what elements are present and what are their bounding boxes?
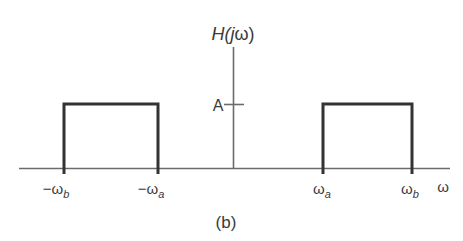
vertical-axis-title-close-paren: ) <box>249 24 255 44</box>
xtick-minus-omega-b-main: −ω <box>43 180 64 197</box>
vertical-axis-title-H: H( <box>211 24 232 44</box>
xtick-omega-a-subscript: a <box>325 188 331 200</box>
amplitude-label: A <box>213 97 224 114</box>
figure-caption: (b) <box>216 213 237 232</box>
xtick-label-omega-b: ωb <box>401 180 419 200</box>
vertical-axis-title: H(jω) <box>211 24 254 44</box>
xtick-label-minus-omega-a: −ωa <box>138 180 165 200</box>
xtick-omega-b-main: ω <box>401 180 413 197</box>
figure-container: H(jω) A −ωb −ωa ωa ωb ω (b) <box>0 0 463 241</box>
vertical-axis-title-omega: ω <box>234 24 248 44</box>
xtick-omega-b-subscript: b <box>413 188 419 200</box>
passband-rect-negative <box>64 104 158 174</box>
xtick-minus-omega-b-subscript: b <box>63 188 69 200</box>
passband-rect-positive <box>323 104 412 174</box>
xtick-label-omega-a: ωa <box>313 180 331 200</box>
xtick-minus-omega-a-subscript: a <box>158 188 164 200</box>
bandpass-filter-figure: H(jω) A −ωb −ωa ωa ωb ω (b) <box>0 0 463 241</box>
xtick-label-minus-omega-b: −ωb <box>43 180 70 200</box>
xtick-minus-omega-a-main: −ω <box>138 180 159 197</box>
xtick-omega-a-main: ω <box>313 180 325 197</box>
horizontal-axis-label: ω <box>437 178 449 195</box>
